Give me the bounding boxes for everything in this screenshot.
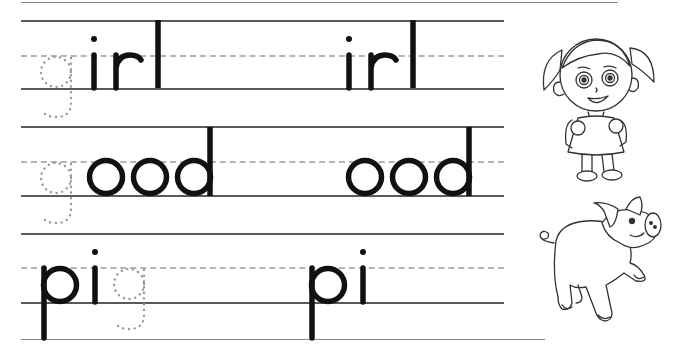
traced-letter-g [38,161,78,226]
row1-word-1 [86,18,166,90]
row3-word-1 [38,250,108,340]
row1-word-2 [341,18,421,90]
top-border-line [21,2,618,3]
row2-word-2 [345,124,480,198]
traced-letter-g [38,55,78,120]
girl-illustration [532,20,662,185]
row3-word-2 [306,250,376,340]
row2-word-1 [86,124,221,198]
row3-top-line [21,233,504,235]
traced-letter-g [111,267,151,332]
pig-illustration [526,193,671,328]
